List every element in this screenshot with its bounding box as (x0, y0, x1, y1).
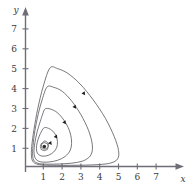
y-tick-label-1: 1 (11, 144, 17, 154)
x-tick-label-7: 7 (153, 172, 159, 182)
flow-direction-arrow-icon (81, 91, 85, 95)
axes-group (22, 7, 184, 172)
y-tick-label-2: 2 (11, 124, 17, 134)
x-tick-label-3: 3 (78, 172, 84, 182)
x-axis-label: x (180, 174, 185, 184)
x-axis-arrowhead (176, 163, 185, 170)
orbit-curve (33, 86, 93, 164)
x-tick-label-1: 1 (40, 172, 46, 182)
y-axis-label: y (12, 5, 19, 15)
x-axis-tick-labels: 1 2 3 4 5 6 7 (40, 172, 159, 182)
x-tick-label-6: 6 (134, 172, 140, 182)
y-tick-label-4: 4 (11, 84, 17, 94)
flow-direction-arrow-icon (72, 105, 76, 109)
x-tick-label-5: 5 (116, 172, 122, 182)
x-tick-label-2: 2 (59, 172, 65, 182)
phase-portrait-figure: 1 2 3 4 5 6 7 1 2 3 4 5 6 7 x y (0, 0, 195, 192)
y-tick-label-6: 6 (11, 44, 17, 54)
y-axis-arrowhead (22, 7, 29, 16)
y-axis-tick-labels: 1 2 3 4 5 6 7 (11, 24, 17, 153)
phase-portrait-plot: 1 2 3 4 5 6 7 1 2 3 4 5 6 7 x y (0, 0, 195, 192)
equilibrium-dot (43, 145, 47, 149)
x-tick-label-4: 4 (97, 172, 103, 182)
y-tick-label-5: 5 (11, 64, 17, 74)
y-tick-label-3: 3 (11, 104, 17, 114)
y-tick-label-7: 7 (11, 24, 17, 34)
flow-direction-arrows-group (48, 91, 85, 145)
